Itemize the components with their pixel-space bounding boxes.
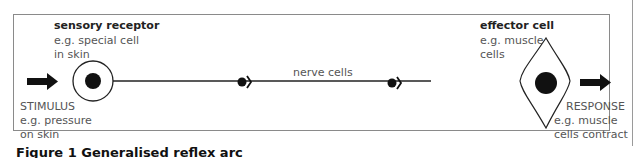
figure-caption: Figure 1 Generalised reflex arc [16,145,243,158]
stimulus-arrow-icon [27,73,58,90]
nerve-cells-label: nerve cells [293,66,353,80]
sensory-receptor-title: sensory receptor [54,19,159,33]
response-example-2: cells contract [554,128,628,142]
stimulus-title: STIMULUS [20,100,75,114]
synapse-icon [388,77,402,89]
response-arrow-icon [580,74,611,91]
sensory-receptor-example-1: e.g. special cell [54,34,139,48]
sensory-receptor-example-2: in skin [54,48,90,62]
stimulus-example-1: e.g. pressure [20,114,92,128]
effector-cell-example-1: e.g. muscle [480,34,544,48]
effector-cell-example-2: cells [480,48,505,62]
response-title: RESPONSE [566,100,625,114]
receptor-cell-icon [73,61,113,101]
stimulus-example-2: on skin [20,128,59,142]
response-example-1: e.g. muscle [554,114,618,128]
synapse-icon [238,76,252,88]
effector-cell-title: effector cell [480,19,554,33]
